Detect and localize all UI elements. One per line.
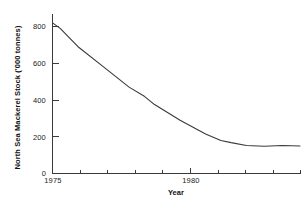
y-axis-title: North Sea Mackerel Stock ('000 tonnes) — [13, 18, 22, 178]
x-axis-title: Year — [52, 188, 300, 197]
y-axis-ticks — [53, 27, 59, 174]
x-axis-ticks — [53, 168, 301, 174]
data-series-line — [53, 23, 301, 146]
x-tick-label-1975: 1975 — [38, 176, 68, 185]
chart-figure: 800 600 400 200 0 1975 1980 North Sea Ma… — [0, 0, 307, 206]
x-tick-label-1980: 1980 — [176, 176, 206, 185]
